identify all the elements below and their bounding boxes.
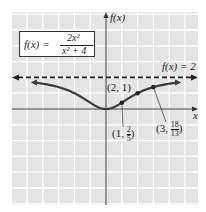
point-label-2-1: (2, 1) — [107, 81, 131, 93]
asymptote-label: f(x) = 2 — [162, 60, 196, 72]
point-label-3-18-13: (3, 1813) — [156, 121, 182, 138]
formula-box: f(x) = 2x² x² + 4 — [19, 31, 95, 57]
formula-numerator: 2x² — [67, 32, 79, 43]
label-denominator: 13 — [171, 130, 179, 138]
x-axis-label: x — [193, 109, 198, 121]
formula-lhs: f(x) = — [24, 38, 49, 50]
formula-denominator: x² + 4 — [62, 45, 86, 56]
label-suffix: ) — [131, 127, 135, 139]
y-axis-label: f(x) — [110, 11, 125, 23]
label-prefix: (1, — [112, 127, 127, 139]
point-label-1-2-5: (1, 25) — [112, 126, 134, 143]
label-prefix: (3, — [156, 122, 171, 134]
label-suffix: ) — [179, 122, 183, 134]
